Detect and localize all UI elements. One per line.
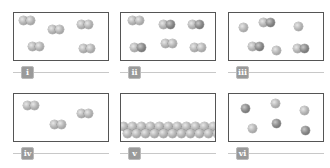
atom [177, 129, 186, 138]
container-box [228, 12, 324, 61]
panel-vi: vi [228, 93, 324, 168]
container-box [120, 12, 216, 61]
atom [248, 124, 257, 133]
atom [301, 126, 310, 135]
atom [168, 39, 177, 48]
panel-label-badge: iii [236, 66, 249, 79]
atom [294, 22, 303, 31]
atom [213, 129, 216, 138]
atom [35, 42, 44, 51]
atom [84, 109, 93, 118]
panel-v: v [120, 93, 216, 168]
panel-label-badge: iv [21, 147, 34, 160]
atom [150, 129, 159, 138]
atom [166, 20, 175, 29]
atom [197, 43, 206, 52]
container-box [13, 12, 109, 61]
atom [272, 46, 281, 55]
panel-label-badge: i [21, 66, 34, 79]
atom [241, 104, 250, 113]
label-row: iii [228, 66, 324, 78]
atom [195, 20, 204, 29]
atom [266, 18, 275, 27]
panel-iii: iii [228, 12, 324, 92]
atom [186, 129, 195, 138]
atom [300, 44, 309, 53]
atom [57, 120, 66, 129]
atom [159, 129, 168, 138]
atom [255, 42, 264, 51]
label-row: v [120, 147, 216, 159]
atom [204, 129, 213, 138]
atom [84, 20, 93, 29]
label-row: vi [228, 147, 324, 159]
panel-ii: ii [120, 12, 216, 92]
label-row: i [13, 66, 109, 78]
label-row: ii [120, 66, 216, 78]
atom [271, 99, 280, 108]
panel-label-badge: vi [236, 147, 249, 160]
panel-i: i [13, 12, 109, 92]
atom [141, 129, 150, 138]
panel-iv: iv [13, 93, 109, 168]
atom [137, 43, 146, 52]
panel-label-badge: v [128, 147, 141, 160]
container-box [13, 93, 109, 142]
container-box [120, 93, 216, 142]
label-row: iv [13, 147, 109, 159]
atom [123, 129, 132, 138]
atom [272, 119, 281, 128]
atom [30, 101, 39, 110]
panel-label-badge: ii [128, 66, 141, 79]
atom [168, 129, 177, 138]
container-box [228, 93, 324, 142]
atom [55, 25, 64, 34]
atom [135, 16, 144, 25]
atom [195, 129, 204, 138]
atom [239, 23, 248, 32]
atom [300, 106, 309, 115]
atom [132, 129, 141, 138]
atom [26, 16, 35, 25]
atom [86, 44, 95, 53]
